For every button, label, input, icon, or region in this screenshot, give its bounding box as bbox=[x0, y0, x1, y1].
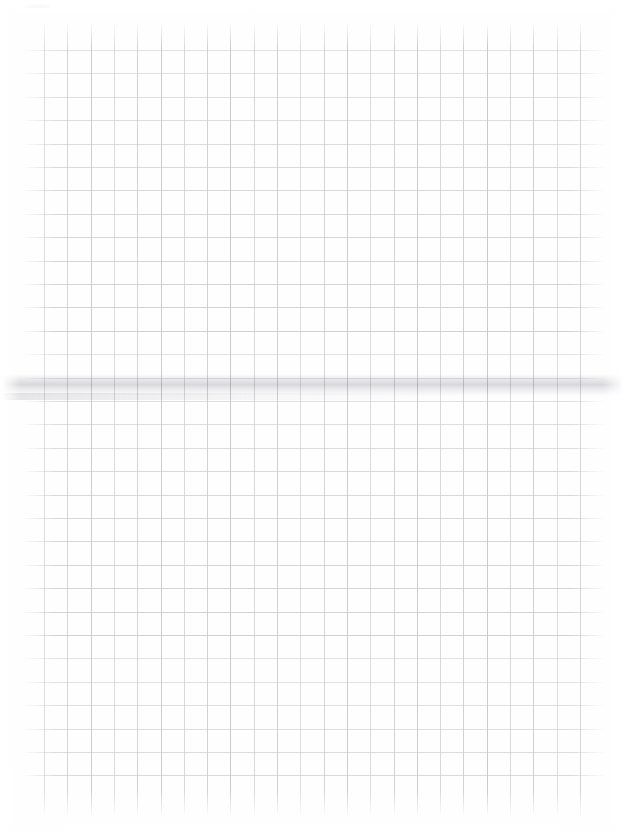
grid-line-vertical bbox=[324, 22, 325, 816]
grid-line-horizontal bbox=[22, 120, 605, 121]
grid-line-horizontal bbox=[22, 471, 605, 472]
grid-line-horizontal bbox=[22, 354, 605, 355]
corner-smudge-artifact bbox=[24, 0, 50, 8]
grid-line-horizontal bbox=[22, 448, 605, 449]
grid-line-horizontal bbox=[22, 50, 605, 51]
grid-line-horizontal bbox=[22, 705, 605, 706]
grid-line-horizontal bbox=[22, 261, 605, 262]
grid-line-horizontal bbox=[22, 658, 605, 659]
grid-line-vertical bbox=[277, 22, 278, 816]
grid-line-horizontal bbox=[22, 167, 605, 168]
grid-line-vertical bbox=[487, 22, 488, 816]
grid-line-horizontal bbox=[22, 144, 605, 145]
grid-line-vertical bbox=[370, 22, 371, 816]
grid-line-vertical bbox=[557, 22, 558, 816]
grid-line-vertical bbox=[440, 22, 441, 816]
grid-line-vertical bbox=[44, 22, 45, 816]
grid-line-vertical bbox=[347, 22, 348, 816]
grid-line-vertical bbox=[161, 22, 162, 816]
grid-line-horizontal bbox=[22, 284, 605, 285]
grid-line-vertical bbox=[184, 22, 185, 816]
edge-fade-right bbox=[603, 0, 625, 839]
grid-line-vertical bbox=[137, 22, 138, 816]
grid-line-horizontal bbox=[22, 424, 605, 425]
vertical-grid-lines bbox=[44, 22, 581, 816]
grid-line-horizontal bbox=[22, 73, 605, 74]
grid-line-horizontal bbox=[22, 612, 605, 613]
grid-line-vertical bbox=[533, 22, 534, 816]
grid-line-horizontal bbox=[22, 378, 605, 379]
grid-line-horizontal bbox=[22, 588, 605, 589]
grid-line-horizontal bbox=[22, 307, 605, 308]
grid-line-horizontal bbox=[22, 190, 605, 191]
grid-line-vertical bbox=[207, 22, 208, 816]
grid-line-vertical bbox=[417, 22, 418, 816]
horizontal-grid-lines bbox=[22, 50, 605, 794]
grid-line-horizontal bbox=[22, 401, 605, 402]
grid-line-vertical bbox=[91, 22, 92, 816]
grid-line-horizontal bbox=[22, 97, 605, 98]
grid-line-vertical bbox=[230, 22, 231, 816]
grid-line-horizontal bbox=[22, 565, 605, 566]
grid-line-horizontal bbox=[22, 214, 605, 215]
grid-line-vertical bbox=[67, 22, 68, 816]
grid-line-vertical bbox=[463, 22, 464, 816]
grid-line-horizontal bbox=[22, 729, 605, 730]
grid-paper-page bbox=[0, 0, 625, 839]
grid-line-horizontal bbox=[22, 518, 605, 519]
grid-line-vertical bbox=[254, 22, 255, 816]
grid-line-vertical bbox=[114, 22, 115, 816]
edge-fade-bottom bbox=[0, 813, 625, 839]
grid-line-horizontal bbox=[22, 237, 605, 238]
edge-fade-left bbox=[0, 0, 20, 839]
scan-streak-artifact bbox=[0, 393, 470, 400]
grid-line-horizontal bbox=[22, 775, 605, 776]
grid-line-vertical bbox=[510, 22, 511, 816]
paper-tone-overlay bbox=[0, 0, 625, 839]
grid-line-vertical bbox=[580, 22, 581, 816]
grid-line-horizontal bbox=[22, 331, 605, 332]
grid-line-vertical bbox=[394, 22, 395, 816]
grid-line-horizontal bbox=[22, 635, 605, 636]
edge-fade-top bbox=[0, 0, 625, 18]
grid-line-horizontal bbox=[22, 495, 605, 496]
grid-line-horizontal bbox=[22, 752, 605, 753]
scan-band-artifact bbox=[0, 374, 625, 396]
grid-line-horizontal bbox=[22, 541, 605, 542]
grid-line-vertical bbox=[300, 22, 301, 816]
grid-line-horizontal bbox=[22, 682, 605, 683]
